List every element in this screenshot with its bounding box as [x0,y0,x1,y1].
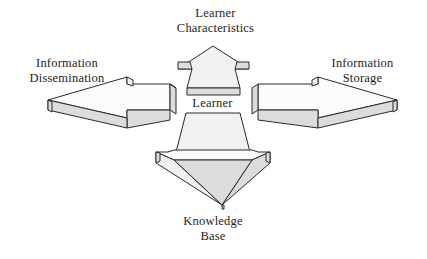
up-arrow-left-tab [178,62,192,69]
left-arrow-tip-edge [48,100,52,112]
left-arrow-shaft-side [127,110,170,128]
right-arrow-tip-edge [393,100,397,112]
down-arrow-bottom-vertex [222,205,224,209]
right-arrow-shaft-side [258,110,318,128]
down-arrow-head-top [156,150,270,160]
up-arrow-base-band [187,88,240,95]
down-arrow [156,113,270,209]
down-arrow-right-tip-edge [266,152,270,163]
label-knowledge-base: Knowledge Base [163,214,263,244]
diagram-canvas: .face{fill:#f1f1f1;stroke:#2b2b2b;stroke… [0,0,427,259]
label-learner-characteristics-line2: Characteristics [143,21,288,36]
label-information-storage-line1: Information [300,56,425,71]
up-arrow-right-tab [235,62,249,69]
label-information-dissemination: Information Dissemination [2,56,132,86]
label-knowledge-base-line1: Knowledge [163,214,263,229]
label-information-storage-line2: Storage [300,71,425,86]
label-learner: Learner [165,96,260,111]
down-arrow-left-tip-edge [156,152,160,163]
label-information-dissemination-line2: Dissemination [2,71,132,86]
up-arrow [178,46,249,95]
label-information-storage: Information Storage [300,56,425,86]
label-learner-characteristics-line1: Learner [143,6,288,21]
label-information-dissemination-line1: Information [2,56,132,71]
label-knowledge-base-line2: Base [163,229,263,244]
label-learner-characteristics: Learner Characteristics [143,6,288,36]
label-learner-line1: Learner [165,96,260,111]
